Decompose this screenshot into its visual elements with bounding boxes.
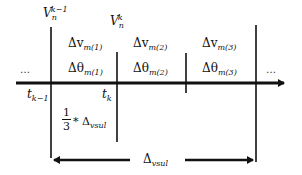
span-label-delta-vsul: Δvsul xyxy=(143,153,168,168)
time-label-t-k-minus-1: tk−1 xyxy=(27,88,48,103)
time-label-t-k: tk xyxy=(102,88,112,103)
delta-v-m2: Δvm(2) xyxy=(133,37,167,52)
node-label-v-k: Vnk xyxy=(110,14,123,30)
delta-v-m3: Δvm(3) xyxy=(202,37,236,52)
delta-v-m1: Δvm(1) xyxy=(68,37,102,52)
node-label-v-k-minus-1: Vnk−1 xyxy=(43,6,67,22)
delta-theta-m2: Δθm(2) xyxy=(133,62,168,77)
fraction-one-third: 1 3 xyxy=(62,107,71,132)
ellipsis-right: … xyxy=(266,64,277,75)
delta-theta-m3: Δθm(3) xyxy=(202,62,237,77)
fraction-delta-vsul: * Δvsul xyxy=(73,116,106,130)
ellipsis-left: … xyxy=(20,64,31,75)
delta-theta-m1: Δθm(1) xyxy=(68,62,103,77)
